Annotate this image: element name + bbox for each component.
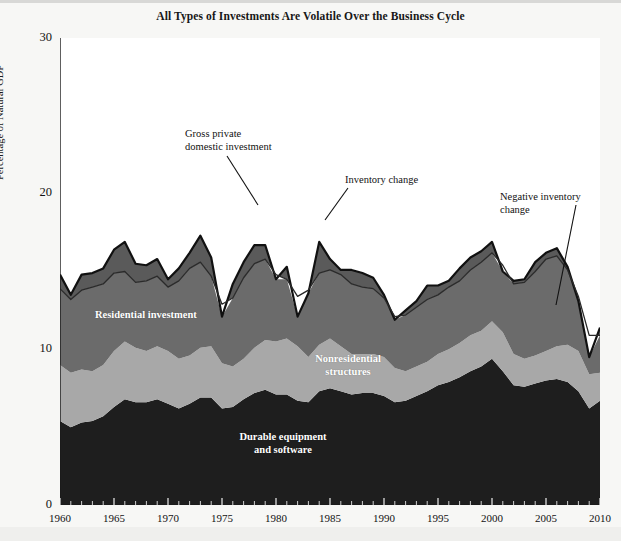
- y-tick-30: 30: [22, 30, 52, 45]
- x-tick-1975: 1975: [202, 512, 242, 524]
- annotation-gross-private-domestic-investment: Gross private domestic investment: [185, 128, 272, 153]
- y-tick-20: 20: [22, 185, 52, 200]
- x-tick-2005: 2005: [526, 512, 566, 524]
- x-tick-1990: 1990: [364, 512, 404, 524]
- x-tick-2000: 2000: [472, 512, 512, 524]
- band-label-residential-investment: Residential investment: [95, 308, 197, 321]
- annotation-negative-inventory-change: Negative inventory change: [500, 191, 581, 216]
- x-tick-1960: 1960: [40, 512, 80, 524]
- x-tick-2010: 2010: [580, 512, 620, 524]
- band-label-nonresidential-structures: Nonresidential structures: [288, 352, 408, 378]
- top-rule: [0, 0, 621, 3]
- x-tick-1970: 1970: [148, 512, 188, 524]
- y-tick-10: 10: [22, 341, 52, 356]
- annotation-inventory-change: Inventory change: [345, 174, 418, 187]
- y-axis-label: Percentage of Natural GDP: [0, 0, 5, 180]
- bottom-rule: [0, 527, 621, 541]
- x-tick-1985: 1985: [310, 512, 350, 524]
- figure-canvas: All Types of Investments Are Volatile Ov…: [0, 0, 621, 541]
- x-tick-1980: 1980: [256, 512, 296, 524]
- x-tick-1965: 1965: [94, 512, 134, 524]
- y-tick-0: 0: [22, 497, 52, 512]
- page-title: All Types of Investments Are Volatile Ov…: [0, 10, 621, 22]
- band-label-durable-equipment-and-software: Durable equipment and software: [208, 430, 358, 456]
- x-tick-1995: 1995: [418, 512, 458, 524]
